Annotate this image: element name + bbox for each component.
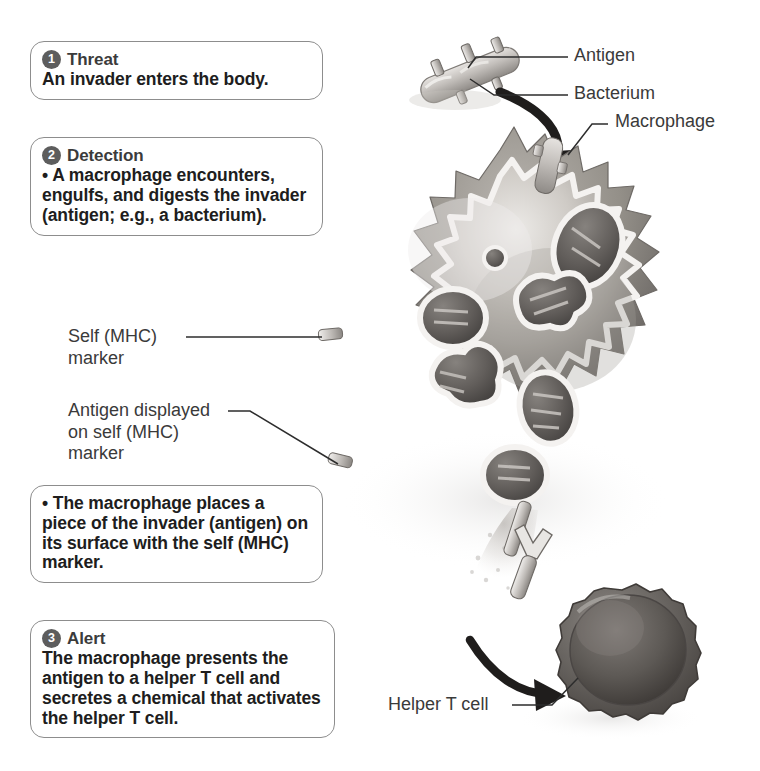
bacterium-free — [409, 28, 527, 117]
vesicle-2 — [516, 273, 589, 328]
label-antigen: Antigen — [574, 45, 635, 67]
label-macrophage: Macrophage — [615, 111, 715, 133]
t-cell-arrow — [470, 640, 548, 694]
engulf-arrow-head — [541, 150, 572, 180]
step-body-3: The macrophage presents the antigen to a… — [42, 649, 322, 728]
vesicle-1 — [542, 195, 635, 298]
callout-step-2b: • The macrophage places a piece of the i… — [30, 485, 323, 583]
macrophage-cell — [318, 127, 659, 503]
label-self-mhc-marker: Self (MHC) marker — [68, 326, 157, 369]
helper-t-cell — [518, 584, 702, 740]
engulf-arrow — [500, 92, 558, 162]
macrophage-shadow — [340, 430, 670, 570]
engulfed-bacterium — [525, 135, 572, 197]
mhc-marker-spikes — [318, 327, 353, 468]
vesicle-group — [420, 195, 634, 503]
step-title-3: Alert — [67, 629, 105, 648]
step-title-2: Detection — [67, 146, 144, 165]
vesicle-6 — [483, 447, 547, 503]
macrophage-inner-membrane — [434, 160, 639, 378]
leader-antigen — [468, 57, 568, 68]
step-badge-2: 2 — [42, 146, 61, 165]
macrophage-outer-membrane — [411, 127, 659, 394]
t-cell-membrane — [556, 584, 701, 720]
leader-helper-t — [512, 678, 578, 705]
label-helper-t-cell: Helper T cell — [388, 694, 488, 716]
leader-macrophage — [568, 124, 608, 155]
t-cell-arrow-head — [534, 679, 566, 711]
label-bacterium: Bacterium — [574, 83, 655, 105]
step-body-1: An invader enters the body. — [42, 70, 310, 90]
antigen-presentation-complex — [503, 500, 552, 600]
step-title-1: Threat — [67, 50, 118, 69]
self-mhc-marker-spike — [318, 327, 343, 340]
small-vesicle — [484, 247, 506, 269]
callout-step-3: 3 Alert The macrophage presents the anti… — [30, 620, 335, 738]
callout-1-heading: 1 Threat — [42, 50, 310, 69]
callout-3-heading: 3 Alert — [42, 629, 322, 648]
leader-bacterium — [470, 79, 568, 95]
callout-step-1: 1 Threat An invader enters the body. — [30, 41, 323, 100]
t-cell-nucleus — [570, 595, 686, 705]
antigen-spikes — [429, 32, 517, 109]
step-badge-3: 3 — [42, 629, 61, 648]
diagram-canvas: 1 Threat An invader enters the body. 2 D… — [0, 0, 760, 771]
vesicle-3 — [420, 289, 486, 347]
leader-antigen-displayed — [228, 411, 338, 464]
t-cell-receptor — [515, 525, 552, 559]
antigen-mhc-marker-spike — [327, 452, 353, 468]
step-body-2b: • The macrophage places a piece of the i… — [42, 494, 310, 573]
chemical-secretion — [470, 508, 538, 590]
step-badge-1: 1 — [42, 50, 61, 69]
callout-2-heading: 2 Detection — [42, 146, 310, 165]
vesicle-4 — [432, 344, 501, 406]
vesicle-5 — [513, 367, 583, 449]
label-antigen-displayed: Antigen displayed on self (MHC) marker — [68, 400, 210, 465]
callout-step-2: 2 Detection • A macrophage encounters, e… — [30, 137, 323, 236]
step-body-2: • A macrophage encounters, engulfs, and … — [42, 166, 310, 225]
